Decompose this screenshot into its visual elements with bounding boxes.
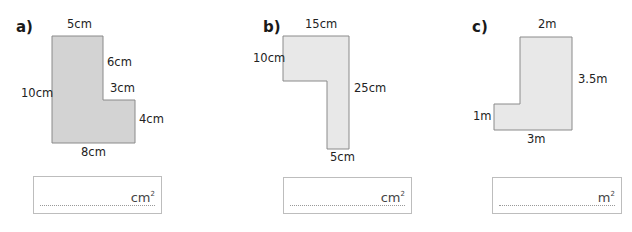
- dim-b-top: 15cm: [305, 17, 337, 31]
- dim-a-left: 10cm: [21, 86, 53, 100]
- dim-b-bottom: 5cm: [330, 150, 355, 164]
- question-label-a: a): [16, 18, 33, 36]
- dim-a-top: 5cm: [67, 17, 92, 31]
- dim-b-left: 10cm: [253, 51, 285, 65]
- dim-c-top: 2m: [538, 17, 557, 31]
- dim-a-step: 3cm: [110, 81, 135, 95]
- answer-line-a: [40, 205, 155, 206]
- dim-c-right: 3.5m: [578, 72, 608, 86]
- unit-label-c: m2: [598, 190, 615, 205]
- dim-b-right: 25cm: [354, 81, 386, 95]
- dim-c-bottom: 3m: [527, 132, 546, 146]
- unit-label-a: cm2: [131, 190, 155, 205]
- l-shape-c: [494, 37, 572, 130]
- dim-a-right-upper: 6cm: [107, 55, 132, 69]
- question-label-c: c): [472, 18, 488, 36]
- unit-label-b: cm2: [381, 190, 405, 205]
- answer-line-c: [499, 205, 615, 206]
- l-shape-b: [283, 36, 349, 149]
- answer-line-b: [290, 205, 405, 206]
- answer-box-c[interactable]: m2: [492, 177, 622, 214]
- dim-c-left: 1m: [473, 109, 492, 123]
- question-label-b: b): [263, 18, 281, 36]
- answer-box-a[interactable]: cm2: [33, 176, 162, 214]
- dim-a-bottom: 8cm: [81, 145, 106, 159]
- dim-a-right-lower: 4cm: [139, 112, 164, 126]
- answer-box-b[interactable]: cm2: [283, 177, 412, 214]
